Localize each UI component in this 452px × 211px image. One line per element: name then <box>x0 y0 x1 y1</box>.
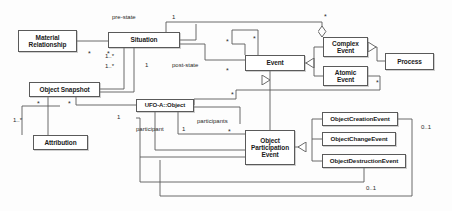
class-label-object-snapshot: Object Snapshot <box>39 86 89 93</box>
class-situation[interactable]: Situation <box>108 32 180 48</box>
class-object-destruction-event[interactable]: ObjectDestructionEvent <box>322 154 406 168</box>
label-line-2: Participation <box>251 144 289 151</box>
class-label-object-destruction-event: ObjectDestructionEvent <box>330 158 398 165</box>
multiplicity-object-top-star: * <box>231 91 234 98</box>
class-material-relationship[interactable]: Material Relationship <box>18 30 77 52</box>
role-label-pre-state: pre-state <box>112 14 136 20</box>
multiplicity-object-left-one: 1 <box>117 114 120 120</box>
class-label-ufo-a-object: UFO-A::Object <box>145 102 185 108</box>
multiplicity-participants-star: * <box>228 128 231 135</box>
multiplicity-atomic-side-star: * <box>376 79 379 86</box>
class-label-process: Process <box>397 58 422 65</box>
label-line-1: Complex <box>332 40 359 47</box>
multiplicity-situation-complex-star: * <box>324 13 327 20</box>
role-label-participant: participant <box>136 126 164 132</box>
role-label-post-state: post-state <box>172 62 198 68</box>
multiplicity-event-complex-star: * <box>253 35 256 42</box>
class-label-object-change-event: ObjectChangeEvent <box>330 136 387 143</box>
class-label-material-relationship: Material Relationship <box>29 34 67 48</box>
class-complex-event[interactable]: Complex Event <box>323 37 368 57</box>
class-object-participation-event[interactable]: Object Participation Event <box>245 130 295 165</box>
edge-situation-pre-state-complex <box>166 22 322 37</box>
class-atomic-event[interactable]: Atomic Event <box>323 66 368 86</box>
edge-situation-event-upper <box>180 24 196 40</box>
multiplicity-event-down-star: * <box>226 67 229 74</box>
edge-process-complex-event <box>368 47 385 61</box>
multiplicity-situation-event-star: * <box>226 38 229 45</box>
uml-diagram-canvas: Material Relationship Situation Object S… <box>0 0 452 211</box>
label-line-2: Relationship <box>29 41 67 48</box>
multiplicity-destruction-zero-one: 0..1 <box>366 185 376 191</box>
label-line-1: Material <box>36 34 60 41</box>
multiplicity-post-state-one: 1 <box>145 62 148 68</box>
label-line-2: Event <box>337 47 354 54</box>
class-label-complex-event: Complex Event <box>332 40 359 54</box>
class-label-object-participation-event: Object Participation Event <box>251 137 289 158</box>
class-object-change-event[interactable]: ObjectChangeEvent <box>322 132 396 146</box>
label-line-3: Event <box>261 151 278 158</box>
multiplicity-attribution-one-star: 1..* <box>13 117 22 123</box>
class-object-creation-event[interactable]: ObjectCreationEvent <box>322 112 398 126</box>
class-label-attribution: Attribution <box>44 139 76 146</box>
multiplicity-snapshot-attribution-star: * <box>37 100 40 107</box>
label-line-2: Event <box>337 76 354 83</box>
multiplicity-snapshot-situation-a: 1..* <box>105 53 114 59</box>
edge-situation-star-event <box>232 44 245 55</box>
edge-atomic-to-ufo-object <box>194 90 236 105</box>
class-label-situation: Situation <box>131 36 158 43</box>
class-label-atomic-event: Atomic Event <box>335 69 356 83</box>
role-label-participants: participants <box>197 118 228 124</box>
class-ufo-a-object[interactable]: UFO-A::Object <box>136 99 194 112</box>
class-object-snapshot[interactable]: Object Snapshot <box>29 82 100 97</box>
class-label-event: Event <box>266 59 283 66</box>
class-attribution[interactable]: Attribution <box>33 135 88 150</box>
multiplicity-snapshot-situation-b: 1..* <box>105 63 114 69</box>
label-line-1: Object <box>260 137 280 144</box>
edge-situation-post-state-event <box>180 44 245 60</box>
multiplicity-snapshot-object-star: * <box>68 100 71 107</box>
class-event[interactable]: Event <box>245 55 305 71</box>
edge-attribution-object-left <box>22 106 60 135</box>
multiplicity-creation-zero-one: 0..1 <box>421 124 431 130</box>
edge-object-snapshot-ufo-object <box>76 97 136 105</box>
multiplicity-participant-one: 1 <box>182 126 185 132</box>
class-label-object-creation-event: ObjectCreationEvent <box>330 116 389 123</box>
multiplicity-material-left-star: * <box>88 50 91 57</box>
label-line-1: Atomic <box>335 69 356 76</box>
class-process[interactable]: Process <box>385 53 434 70</box>
multiplicity-pre-state-one: 1 <box>172 14 175 20</box>
